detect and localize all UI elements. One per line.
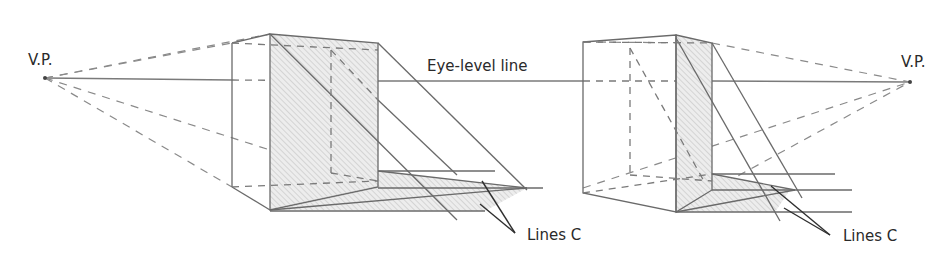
vp-right-point [908,80,912,84]
right-vp-construction-lines [583,42,910,190]
vp-right-label: V.P. [901,53,926,71]
eye-level-line [45,78,910,82]
lines-c-left-label: Lines C [527,226,581,244]
vp-left-label: V.P. [28,51,53,69]
lines-c-right-pointer [771,186,830,235]
lines-c-right-label: Lines C [843,227,897,245]
left-vp-construction-lines [45,34,270,187]
perspective-diagram [0,0,951,269]
eye-level-label: Eye-level line [427,57,528,75]
vp-left-point [43,76,47,80]
right-box [583,35,852,235]
